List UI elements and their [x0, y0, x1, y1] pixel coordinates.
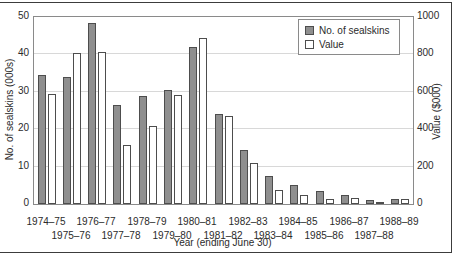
- x-tick-1988-89: 1988–89: [376, 216, 422, 228]
- left-tick-10: 10: [0, 160, 29, 172]
- x-tick-1981-82: 1981–82: [200, 230, 246, 242]
- legend-entry-no-of-sealskins: No. of sealskins: [305, 23, 390, 37]
- x-tick-1977-78: 1977–78: [98, 230, 144, 242]
- x-tick-1978-79: 1978–79: [124, 216, 170, 228]
- bar-value-1978-79: [149, 126, 157, 204]
- bar-value-1982-83: [250, 163, 258, 204]
- bar-no-of-sealskins-1984-85: [290, 185, 298, 204]
- bar-value-1977-78: [123, 145, 131, 204]
- bar-value-1985-86: [326, 199, 334, 204]
- bar-value-1983-84: [275, 190, 283, 204]
- bar-no-of-sealskins-1974-75: [38, 75, 46, 204]
- bar-no-of-sealskins-1975-76: [63, 77, 71, 204]
- bar-value-1987-88: [376, 202, 384, 204]
- legend-swatch-no-of-sealskins: [305, 26, 314, 35]
- right-tick-1000: 1000: [417, 10, 457, 22]
- x-tick-1987-88: 1987–88: [351, 230, 397, 242]
- bar-no-of-sealskins-1980-81: [189, 47, 197, 204]
- x-tick-1976-77: 1976–77: [73, 216, 119, 228]
- legend-swatch-value: [305, 40, 314, 49]
- bar-value-1979-80: [174, 95, 182, 204]
- bar-no-of-sealskins-1985-86: [316, 191, 324, 204]
- x-tick-1982-83: 1982–83: [225, 216, 271, 228]
- bar-value-1975-76: [73, 53, 81, 204]
- bar-no-of-sealskins-1987-88: [366, 200, 374, 204]
- bar-value-1988-89: [401, 199, 409, 204]
- bar-no-of-sealskins-1977-78: [113, 105, 121, 204]
- x-tick-1980-81: 1980–81: [174, 216, 220, 228]
- bar-no-of-sealskins-1978-79: [139, 96, 147, 204]
- left-tick-30: 30: [0, 85, 29, 97]
- bar-no-of-sealskins-1988-89: [391, 199, 399, 204]
- left-tick-20: 20: [0, 122, 29, 134]
- bar-no-of-sealskins-1981-82: [215, 114, 223, 204]
- legend-entry-value: Value: [305, 37, 390, 51]
- x-tick-1979-80: 1979–80: [149, 230, 195, 242]
- bar-no-of-sealskins-1986-87: [341, 195, 349, 204]
- bar-no-of-sealskins-1979-80: [164, 90, 172, 204]
- x-tick-1986-87: 1986–87: [326, 216, 372, 228]
- bar-no-of-sealskins-1976-77: [88, 23, 96, 204]
- bar-value-1986-87: [351, 198, 359, 204]
- x-tick-1985-86: 1985–86: [301, 230, 347, 242]
- right-tick-600: 600: [417, 85, 457, 97]
- left-tick-50: 50: [0, 10, 29, 22]
- x-tick-1983-84: 1983–84: [250, 230, 296, 242]
- bar-value-1976-77: [98, 52, 106, 204]
- bar-no-of-sealskins-1982-83: [240, 150, 248, 204]
- legend-label-value: Value: [319, 39, 344, 50]
- right-tick-800: 800: [417, 47, 457, 59]
- bar-value-1984-85: [300, 195, 308, 204]
- x-tick-1974-75: 1974–75: [23, 216, 69, 228]
- legend: No. of sealskinsValue: [298, 19, 400, 55]
- x-tick-1984-85: 1984–85: [275, 216, 321, 228]
- bar-value-1981-82: [225, 116, 233, 204]
- sealskins-bar-chart: No. of sealskins (000s) Value ($000) Yea…: [0, 0, 463, 273]
- x-tick-1975-76: 1975–76: [48, 230, 94, 242]
- left-tick-40: 40: [0, 47, 29, 59]
- left-tick-0: 0: [0, 197, 29, 209]
- bar-no-of-sealskins-1983-84: [265, 176, 273, 204]
- right-tick-400: 400: [417, 122, 457, 134]
- right-tick-200: 200: [417, 160, 457, 172]
- bar-value-1980-81: [199, 38, 207, 204]
- legend-label-no-of-sealskins: No. of sealskins: [319, 25, 390, 36]
- right-tick-0: 0: [417, 197, 457, 209]
- bar-value-1974-75: [48, 94, 56, 204]
